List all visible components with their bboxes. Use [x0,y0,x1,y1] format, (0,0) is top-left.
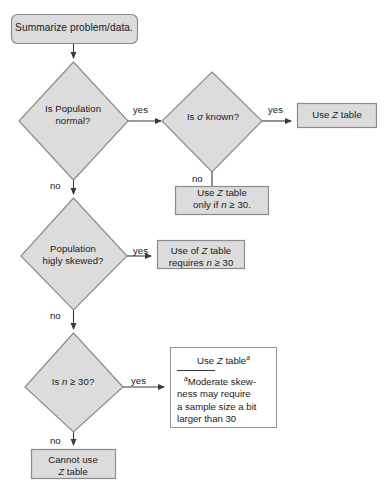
flowchart-canvas: Summarize problem/data. Is Population no… [0,0,388,489]
node-use-of-z-requires-shape [158,241,245,269]
node-start-shape [12,15,138,44]
node-use-z-footnote-callout: Use Z tablea aModerate skew- ness may re… [170,347,277,428]
node-use-z-table-shape [298,104,377,128]
node-decision-skewed-shape [21,198,127,310]
node-use-z-only-if-shape [176,187,269,215]
footnote-divider [177,370,215,371]
node-cannot-use-shape [32,450,116,479]
footnote-title: Use Z tablea [176,352,271,368]
node-decision-normal-shape [19,62,128,180]
footnote-body: aModerate skew- ness may require a sampl… [176,373,271,426]
node-decision-n30-shape [25,333,123,432]
node-decision-sigma-shape [162,72,262,172]
